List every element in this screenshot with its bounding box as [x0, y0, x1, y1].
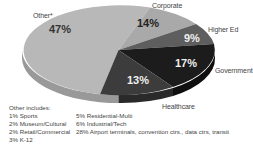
note-item: 2% Museum/Cultural	[9, 120, 76, 128]
percent-other: 47%	[49, 23, 71, 35]
percent-government: 17%	[175, 57, 197, 69]
note-item: 2% Retail/Commercial	[9, 128, 76, 136]
label-higher-ed: Higher Ed	[208, 26, 238, 33]
note-item: 1% Sports	[9, 112, 76, 120]
percent-healthcare: 13%	[127, 74, 149, 86]
percent-higher-ed: 9%	[184, 32, 200, 44]
other-includes-note: Other includes: 1% Sports 2% Museum/Cult…	[9, 104, 229, 144]
percent-corporate: 14%	[137, 17, 159, 29]
label-corporate: Corporate	[152, 2, 182, 9]
label-government: Government	[215, 67, 253, 74]
note-item: 28% Airport terminals, convention ctrs.,…	[76, 128, 229, 136]
note-item: 6% Industrial/Tech	[76, 120, 229, 128]
note-item: 5% Residential-Multi	[76, 112, 229, 120]
note-col-2: 5% Residential-Multi 6% Industrial/Tech …	[76, 112, 229, 144]
note-item: 3% K-12	[9, 136, 76, 144]
note-heading: Other includes:	[9, 104, 229, 112]
note-col-1: 1% Sports 2% Museum/Cultural 2% Retail/C…	[9, 112, 76, 144]
label-other: Other*	[33, 12, 53, 19]
